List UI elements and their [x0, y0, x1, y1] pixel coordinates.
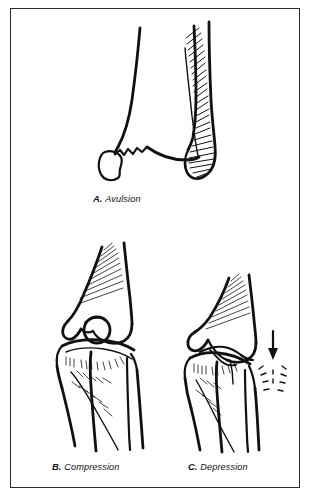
- figure-plate: .ink { fill:none; stroke:#111111; stroke…: [0, 0, 311, 497]
- caption-c-letter: C.: [188, 461, 198, 472]
- caption-panel-c: C. Depression: [188, 461, 248, 472]
- plate-border-frame: [10, 8, 300, 488]
- caption-panel-b: B. Compression: [52, 461, 119, 472]
- caption-b-text: Compression: [64, 462, 119, 472]
- caption-panel-a: A. Avulsion: [93, 193, 141, 204]
- caption-a-letter: A.: [93, 193, 103, 204]
- caption-b-letter: B.: [52, 461, 62, 472]
- caption-a-text: Avulsion: [105, 194, 140, 204]
- caption-c-text: Depression: [200, 462, 247, 472]
